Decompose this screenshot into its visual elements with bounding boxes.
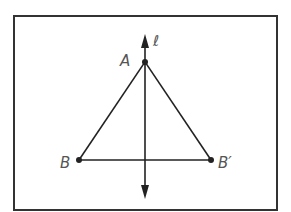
line-label-l: ℓ (152, 32, 159, 50)
diagram-canvas: A B B′ ℓ (0, 0, 291, 212)
point-b (76, 157, 82, 163)
point-label-a: A (119, 52, 130, 70)
segment-a-b-prime (145, 62, 211, 160)
arrowhead-up-icon (141, 34, 149, 48)
point-label-b: B (60, 154, 70, 172)
segment-a-b (79, 62, 145, 160)
point-label-b-prime: B′ (218, 154, 232, 172)
point-a (142, 59, 148, 65)
point-b-prime (208, 157, 214, 163)
arrowhead-down-icon (141, 185, 149, 199)
